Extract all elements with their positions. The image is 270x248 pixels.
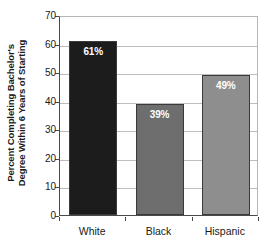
x-axis-category-label: Hispanic: [175, 225, 270, 237]
x-axis-tick: [125, 217, 126, 221]
bar-value-label: 61%: [70, 46, 116, 57]
x-axis-tick: [192, 217, 193, 221]
bar: 49%: [202, 75, 250, 215]
y-axis-label: 30: [16, 125, 56, 135]
x-axis-tick: [59, 217, 60, 221]
y-axis-label: 60: [16, 40, 56, 50]
bar: 39%: [136, 104, 184, 215]
y-axis-label: 40: [16, 97, 56, 107]
y-axis-label: 50: [16, 68, 56, 78]
y-axis-label: 70: [16, 11, 56, 21]
y-axis-label: 20: [16, 154, 56, 164]
y-axis-label: 10: [16, 182, 56, 192]
x-axis-tick: [258, 217, 259, 221]
bar: 61%: [69, 41, 117, 215]
y-axis-label: 0: [16, 211, 56, 221]
bar-value-label: 49%: [203, 80, 249, 91]
y-axis-title-line-1: Percent Completing Bachelor's: [5, 44, 17, 182]
bar-chart: Percent Completing Bachelor's Degree Wit…: [0, 0, 270, 248]
bar-value-label: 39%: [137, 109, 183, 120]
y-axis-title-line-2: Degree Within 6 Years of Starting: [16, 40, 28, 186]
plot-area: 61%39%49%: [59, 16, 258, 216]
